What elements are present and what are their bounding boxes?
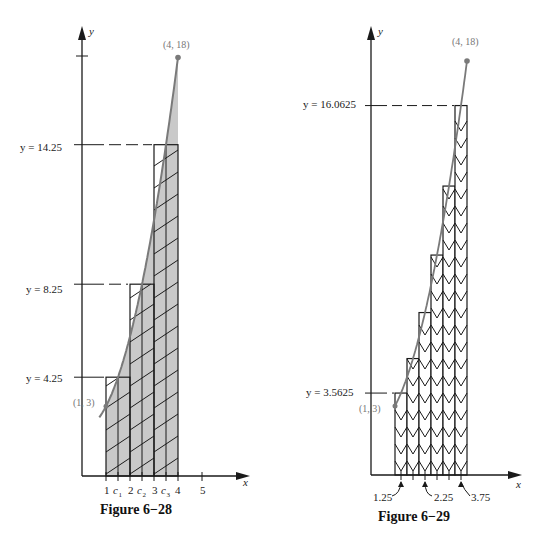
y-axis-arrow [78,26,86,40]
rectangle-5 [443,186,455,475]
y-axis-label: y [377,25,383,37]
level-label-c2: y = 8.25 [26,283,63,295]
y-axis-label: y [88,25,94,37]
tick-label-2: 2 [128,484,134,496]
tick-label-4: 4 [175,484,181,496]
level-label-c1: y = 4.25 [26,372,63,384]
point-4-18 [464,58,470,64]
midpoint-rectangles [395,106,467,475]
tick-label-5: 5 [200,484,206,496]
x-axis-label: x [242,476,248,488]
textbook-figures: y x (4, 18) (1, 3) y = 4.25 y = 8.25 y =… [0,0,543,540]
midpoint-label-3-75: 3.75 [471,491,491,503]
tick-label-c1: c [113,484,118,496]
figure-6-29: y x (4, 18) (1, 3) y = 16.0625 y = 3.562… [303,25,522,524]
pointer-arrowhead [398,481,404,487]
tick-label-c2: c [137,484,142,496]
rectangle-4 [431,255,443,475]
tick-label-1: 1 [104,484,110,496]
midpoint-label-1-25: 1.25 [373,491,393,503]
figure-caption: Figure 6−29 [378,509,450,524]
level-label-bottom: y = 3.5625 [306,386,354,398]
point-4-18 [175,55,181,61]
midpoint-pointer-arrows [392,481,470,496]
pointer-arrowhead [422,481,428,487]
figure-caption: Figure 6−28 [100,502,172,517]
y-axis-arrow [367,26,375,40]
point-end-label: (4, 18) [163,39,190,51]
tick-label-c3-sub: 3 [167,491,171,499]
x-tick-labels: 1 c 1 2 c 2 3 c 3 4 5 [104,484,206,499]
tick-label-3: 3 [152,484,158,496]
x-axis-label: x [515,478,521,490]
tick-label-c1-sub: 1 [119,491,123,499]
level-label-top: y = 16.0625 [303,98,356,110]
point-end-label: (4, 18) [452,36,479,48]
rectangle-3 [419,313,431,475]
figure-6-28: y x (4, 18) (1, 3) y = 4.25 y = 8.25 y =… [20,25,250,517]
point-start-label: (1, 3) [359,403,381,415]
point-start-label: (1, 3) [73,397,95,409]
tick-label-c2-sub: 2 [143,491,147,499]
rectangle-2 [407,359,419,475]
level-label-c3: y = 14.25 [20,141,62,153]
point-1-3 [393,404,398,409]
pointer-arrowhead [458,481,464,487]
midpoint-label-2-25: 2.25 [434,491,454,503]
tick-label-c3: c [161,484,166,496]
point-1-3 [104,404,109,409]
